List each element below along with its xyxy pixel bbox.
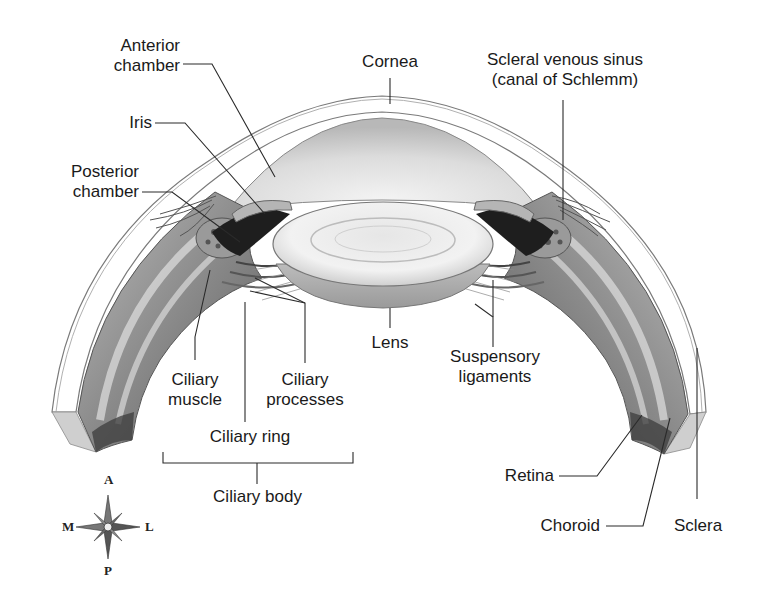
label-posterior-chamber-line1: Posterior (50, 162, 139, 182)
label-ciliary-body: Ciliary body (195, 487, 320, 507)
eye-anatomy-diagram: Anterior chamber Iris Posterior chamber … (0, 0, 764, 608)
label-ciliary-muscle-line2: muscle (160, 390, 230, 410)
compass-lateral: L (145, 519, 154, 535)
label-sclera: Sclera (663, 516, 733, 536)
label-suspensory-line1: Suspensory (440, 347, 550, 367)
label-scleral-venous-sinus: Scleral venous sinus (canal of Schlemm) (465, 50, 665, 90)
compass-anterior: A (104, 472, 113, 488)
label-anterior-chamber-line1: Anterior (90, 36, 180, 56)
label-retina: Retina (480, 466, 554, 486)
compass-posterior: P (104, 563, 112, 579)
label-iris: Iris (100, 113, 152, 133)
eye-illustration (0, 0, 764, 608)
label-anterior-chamber-line2: chamber (90, 56, 180, 76)
label-choroid: Choroid (510, 516, 600, 536)
label-ciliary-muscle: Ciliary muscle (160, 370, 230, 410)
label-scleral-venous-sinus-line2: (canal of Schlemm) (465, 70, 665, 90)
label-cornea: Cornea (350, 52, 430, 72)
label-suspensory-line2: ligaments (440, 367, 550, 387)
label-posterior-chamber: Posterior chamber (50, 162, 139, 202)
label-lens: Lens (360, 333, 420, 353)
label-posterior-chamber-line2: chamber (50, 182, 139, 202)
label-scleral-venous-sinus-line1: Scleral venous sinus (465, 50, 665, 70)
label-anterior-chamber: Anterior chamber (90, 36, 180, 76)
label-suspensory-ligaments: Suspensory ligaments (440, 347, 550, 387)
label-ciliary-processes-line2: processes (254, 390, 356, 410)
lens (273, 202, 493, 308)
label-ciliary-muscle-line1: Ciliary (160, 370, 230, 390)
label-ciliary-ring: Ciliary ring (190, 427, 310, 447)
label-ciliary-processes: Ciliary processes (254, 370, 356, 410)
compass-rose-icon (76, 495, 140, 559)
label-ciliary-processes-line1: Ciliary (254, 370, 356, 390)
compass-medial: M (62, 519, 74, 535)
